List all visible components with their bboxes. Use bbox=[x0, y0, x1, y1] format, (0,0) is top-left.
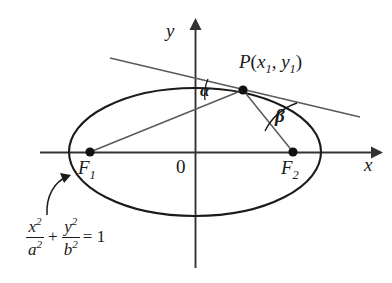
equation-fraction-x: x2 a2 bbox=[26, 216, 44, 258]
origin-label: 0 bbox=[176, 157, 186, 176]
equation-denominator-a: a2 bbox=[26, 238, 44, 259]
tangent-line bbox=[110, 58, 360, 117]
equation-numerator-x: x2 bbox=[26, 216, 43, 237]
equation-y-exponent: 2 bbox=[72, 215, 78, 227]
equation-numerator-y: y2 bbox=[62, 216, 79, 237]
point-p-label: P(x1, y1) bbox=[239, 52, 302, 75]
equation-a-exponent: 2 bbox=[37, 238, 43, 250]
point-p-comma: , bbox=[272, 51, 282, 72]
y-axis bbox=[190, 18, 202, 268]
equation-x-exponent: 2 bbox=[36, 215, 42, 227]
focus-1-letter: F bbox=[78, 157, 90, 178]
point-p-marker bbox=[238, 85, 247, 94]
segment-f1-p bbox=[90, 90, 243, 152]
y-axis-label: y bbox=[166, 21, 174, 40]
point-p-paren-close: ) bbox=[296, 51, 302, 72]
focus-2-label: F2 bbox=[281, 158, 299, 181]
focus-2-subscript: 2 bbox=[293, 168, 299, 182]
equation-b-exponent: 2 bbox=[72, 238, 78, 250]
focus-2-marker bbox=[288, 147, 297, 156]
focus-1-marker bbox=[85, 147, 94, 156]
equation-denominator-b: b2 bbox=[62, 238, 80, 259]
focus-1-label: F1 bbox=[78, 158, 96, 181]
point-p-y: y bbox=[281, 51, 289, 72]
focus-1-subscript: 1 bbox=[90, 168, 96, 182]
annotation-arrowhead bbox=[60, 173, 71, 183]
equation-y-var: y bbox=[64, 217, 72, 236]
ellipse-figure: y x 0 P(x1, y1) F1 F2 α β x2 a2 + y2 b2 … bbox=[0, 0, 392, 283]
equation-plus-sign: + bbox=[47, 227, 59, 247]
focus-2-letter: F bbox=[281, 157, 293, 178]
annotation-arrow bbox=[47, 173, 71, 215]
x-axis-arrowhead bbox=[371, 147, 383, 159]
alpha-angle-label: α bbox=[200, 82, 209, 99]
equation-a-var: a bbox=[28, 239, 37, 258]
beta-angle-label: β bbox=[275, 106, 285, 125]
equation-fraction-y: y2 b2 bbox=[62, 216, 80, 258]
equation-x-var: x bbox=[28, 217, 36, 236]
equation-b-var: b bbox=[64, 239, 73, 258]
x-axis-label: x bbox=[364, 155, 372, 174]
y-axis-arrowhead bbox=[190, 18, 202, 30]
ellipse-equation: x2 a2 + y2 b2 = 1 bbox=[26, 216, 105, 258]
equation-right-hand-side: = 1 bbox=[83, 227, 105, 247]
point-p-letter: P bbox=[239, 51, 251, 72]
